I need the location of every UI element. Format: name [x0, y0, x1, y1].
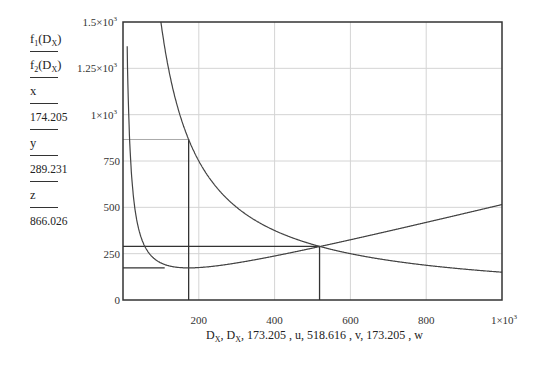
- superscript: 3: [514, 313, 518, 321]
- y-tick-label: 0: [115, 294, 121, 306]
- y-tick-label: 1.5×103: [83, 15, 118, 28]
- superscript: 3: [114, 15, 118, 23]
- x-tick-label: 800: [418, 314, 435, 326]
- y-tick-label: 1.25×103: [77, 61, 117, 74]
- x-axis-label: DX, DX, 173.205 , u, 518.616 , v, 173.20…: [206, 328, 423, 344]
- curves: [127, 22, 502, 272]
- x-tick-label: 600: [342, 314, 359, 326]
- x-tick-label: 400: [266, 314, 283, 326]
- gridlines: [123, 22, 502, 300]
- y-tick-label: 500: [104, 201, 121, 213]
- y-tick-label: 250: [104, 248, 121, 260]
- curve-f1: [127, 46, 502, 268]
- superscript: 3: [114, 61, 118, 69]
- x-tick-label: 1×103: [491, 313, 518, 326]
- plot-area: 2004006008001×10302505007501×1031.25×103…: [0, 0, 549, 366]
- marker-lines: [123, 139, 320, 300]
- superscript: 3: [114, 108, 118, 116]
- tick-labels: 2004006008001×10302505007501×1031.25×103…: [77, 15, 518, 326]
- y-tick-label: 1×103: [91, 108, 118, 121]
- x-tick-label: 200: [191, 314, 208, 326]
- curve-f2: [161, 22, 502, 272]
- y-tick-label: 750: [104, 155, 121, 167]
